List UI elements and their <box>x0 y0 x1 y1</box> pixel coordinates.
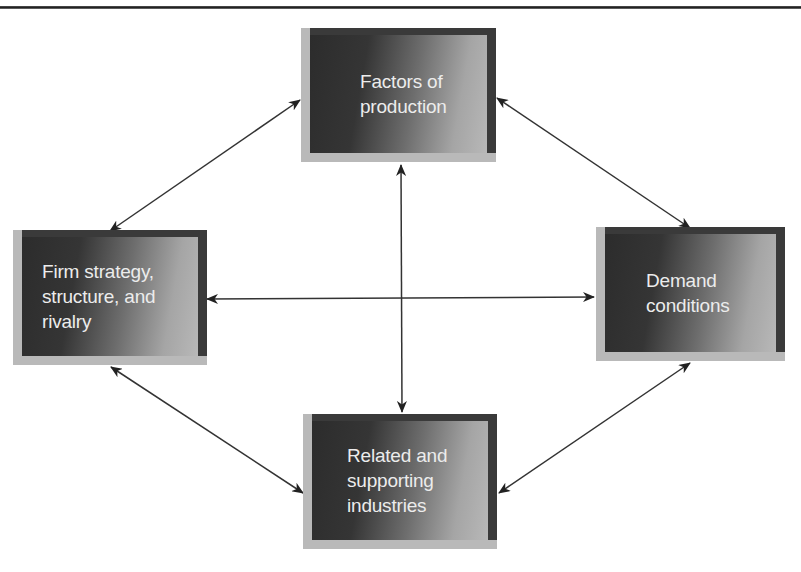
arrow-firm-related <box>111 367 303 493</box>
arrow-firm-demand <box>207 297 594 299</box>
node-label: Related and supporting industries <box>347 443 447 518</box>
arrow-factors-related <box>401 165 402 412</box>
node-label: Factors of production <box>360 69 447 119</box>
node-label: Firm strategy, structure, and rivalry <box>42 259 155 334</box>
box-panel: Firm strategy, structure, and rivalry <box>22 237 198 356</box>
node-related-supporting-industries: Related and supporting industries <box>303 414 497 549</box>
node-firm-strategy: Firm strategy, structure, and rivalry <box>13 230 207 365</box>
arrow-demand-related <box>499 363 690 493</box>
box-panel: Factors of production <box>310 35 487 153</box>
node-factors-of-production: Factors of production <box>301 28 496 162</box>
arrow-factors-demand <box>497 98 690 228</box>
arrow-factors-firm <box>110 100 300 231</box>
box-panel: Related and supporting industries <box>312 421 488 540</box>
node-demand-conditions: Demand conditions <box>596 227 785 361</box>
node-label: Demand conditions <box>646 268 730 318</box>
box-panel: Demand conditions <box>605 234 776 352</box>
